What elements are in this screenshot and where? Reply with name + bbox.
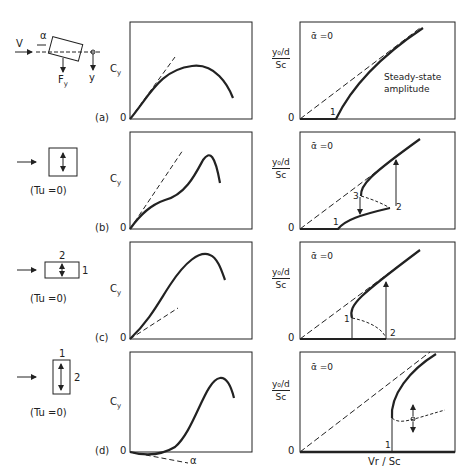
- amp-ylabel-d: y₀/dSc: [272, 378, 290, 403]
- point-2-c: 2: [390, 328, 396, 338]
- condition-d: (Tu =0): [30, 407, 67, 418]
- side-right-d: 2: [74, 372, 80, 383]
- cy-origin-b: 0: [120, 222, 126, 233]
- point-2-b: 2: [396, 202, 402, 212]
- cy-label-b: Cy: [110, 173, 121, 187]
- condition-b: (Tu =0): [30, 185, 67, 196]
- fy-label: Fy: [58, 74, 68, 88]
- steady-state-label: Steady-state: [384, 72, 441, 82]
- y-label: y: [89, 72, 95, 83]
- v-label: V: [16, 38, 23, 49]
- point-3-b: 3: [353, 191, 359, 201]
- amp-ylabel-c: y₀/dSc: [272, 266, 290, 291]
- cy-origin-c: 0: [120, 332, 126, 343]
- amp-origin-d: 0: [288, 445, 294, 456]
- amp-origin-b: 0: [288, 222, 294, 233]
- row-label-b: (b): [95, 222, 109, 233]
- row-label-d: (d): [95, 445, 109, 456]
- side-right-c: 1: [82, 265, 88, 276]
- cy-label-a: Cy: [110, 63, 121, 77]
- alpha-bar-a: ᾱ =0: [311, 31, 333, 41]
- amp-origin-c: 0: [288, 332, 294, 343]
- amp-xlabel: Vr / Sc: [368, 456, 401, 467]
- point-1-c: 1: [344, 314, 350, 324]
- amplitude-label: amplitude: [384, 84, 429, 94]
- point-1-a: 1: [330, 107, 336, 117]
- cy-alpha-d: α: [190, 455, 197, 466]
- cy-label-c: Cy: [110, 283, 121, 297]
- cy-origin-a: 0: [120, 112, 126, 123]
- cy-label-d: Cy: [110, 396, 121, 410]
- amp-ylabel-b: y₀/dSc: [272, 156, 290, 181]
- point-1-b: 1: [333, 217, 339, 227]
- alpha-bar-d: ᾱ =0: [311, 362, 333, 372]
- side-top-c: 2: [59, 250, 65, 261]
- amp-origin-a: 0: [288, 112, 294, 123]
- row-label-a: (a): [95, 112, 109, 123]
- amp-ylabel-a: y₀/dSc: [272, 46, 290, 71]
- condition-c: (Tu =0): [30, 293, 67, 304]
- alpha-bar-c: ᾱ =0: [311, 251, 333, 261]
- side-top-d: 1: [59, 348, 65, 359]
- point-1-d: 1: [385, 440, 391, 450]
- cy-origin-d: 0: [120, 445, 126, 456]
- alpha-label: α: [40, 30, 47, 41]
- row-label-c: (c): [95, 332, 108, 343]
- alpha-bar-b: ᾱ =0: [311, 141, 333, 151]
